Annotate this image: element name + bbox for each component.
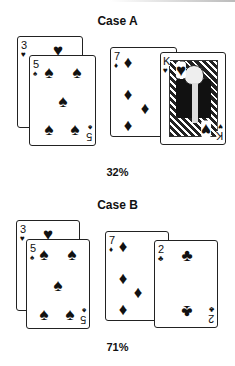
card-rank: 5 — [80, 315, 86, 325]
spade-icon: ♠ — [39, 306, 48, 323]
card-5-spades: 5 ♠ ♠ ♠ ♠ ♠ ♠ ♠ 5 — [29, 55, 96, 146]
card-rank: 2 — [208, 314, 214, 324]
spade-icon: ♠ — [82, 306, 86, 314]
card-rank: 3 — [21, 40, 27, 50]
card-rank: 5 — [86, 132, 92, 142]
spade-icon: ♠ — [67, 246, 76, 263]
diamond-icon: ♦ — [114, 62, 118, 70]
heart-icon: ♥ — [21, 51, 26, 59]
heart-icon: ♥ — [163, 67, 168, 75]
spade-icon: ♠ — [30, 254, 34, 262]
case-b-percentage: 71% — [0, 341, 235, 353]
case-a-title: Case A — [0, 14, 235, 28]
diamond-icon: ♦ — [124, 117, 133, 134]
diamond-icon: ♦ — [109, 246, 113, 254]
diamond-icon: ♦ — [119, 270, 128, 287]
card-rank: K — [163, 56, 170, 66]
card-king-hearts: K ♥ ♥ ♥ ♥ K — [160, 52, 226, 145]
heart-icon: ♥ — [218, 122, 223, 130]
diamond-icon: ♦ — [134, 284, 143, 301]
card-rank: 7 — [114, 51, 120, 61]
spade-icon: ♠ — [53, 277, 62, 294]
spade-icon: ♠ — [44, 64, 53, 81]
spade-icon: ♠ — [72, 64, 81, 81]
spade-icon: ♠ — [58, 93, 67, 110]
card-rank: K — [216, 131, 223, 141]
spade-icon: ♠ — [39, 246, 48, 263]
spade-icon: ♠ — [33, 70, 37, 78]
diamond-icon: ♦ — [124, 54, 133, 71]
spade-icon: ♠ — [44, 121, 53, 138]
card-rank: 7 — [109, 235, 115, 245]
top-edge-shadow — [110, 0, 235, 2]
spade-icon: ♠ — [65, 306, 74, 323]
card-5-spades: 5 ♠ ♠ ♠ ♠ ♠ ♠ ♠ 5 — [26, 239, 90, 329]
club-icon: ♣ — [181, 303, 192, 320]
case-a-percentage: 32% — [0, 166, 235, 178]
spade-icon: ♠ — [88, 123, 92, 131]
card-2-clubs: 2 ♣ ♣ ♣ ♣ 2 — [154, 240, 218, 328]
card-rank: 5 — [33, 59, 39, 69]
diamond-icon: ♦ — [124, 86, 133, 103]
diamond-icon: ♦ — [119, 238, 128, 255]
heart-icon: ♥ — [176, 62, 186, 79]
diamond-icon: ♦ — [119, 301, 128, 318]
club-icon: ♣ — [209, 305, 214, 313]
club-icon: ♣ — [158, 255, 163, 263]
case-b-title: Case B — [0, 198, 235, 212]
club-icon: ♣ — [181, 247, 192, 264]
heart-icon: ♥ — [201, 121, 211, 138]
card-rank: 3 — [20, 224, 26, 234]
card-rank: 2 — [158, 244, 164, 254]
card-rank: 5 — [30, 243, 36, 253]
spade-icon: ♠ — [70, 121, 79, 138]
heart-icon: ♥ — [20, 235, 25, 243]
diamond-icon: ♦ — [141, 100, 150, 117]
